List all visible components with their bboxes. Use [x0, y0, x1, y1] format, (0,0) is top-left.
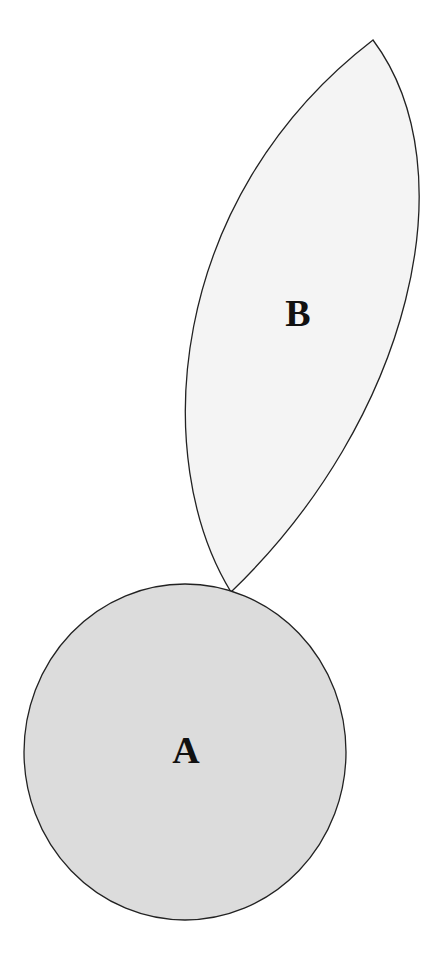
shape-b-lens: B [185, 40, 419, 592]
shape-a-circle: A [24, 584, 346, 920]
label-a: A [172, 729, 200, 771]
diagram-canvas: B A [0, 0, 443, 968]
label-b: B [285, 292, 310, 334]
